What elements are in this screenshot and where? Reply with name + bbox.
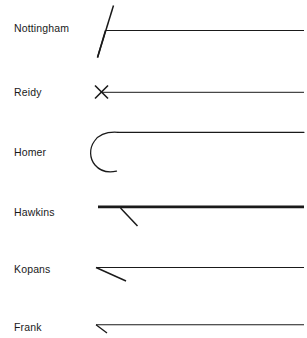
nottingham-stroke-outer <box>98 6 114 58</box>
row-label-homer: Homer <box>14 146 46 158</box>
row-label-hawkins: Hawkins <box>14 206 55 218</box>
reidy-cross-stroke-b <box>95 86 108 99</box>
row-label-frank: Frank <box>14 321 42 333</box>
annotation-canvas: Nottingham Reidy Homer <box>0 0 307 338</box>
kopans-wedge-lower <box>96 268 126 282</box>
row-mark-nottingham <box>0 0 307 338</box>
nottingham-stroke-inner <box>98 31 106 58</box>
row-mark-hawkins <box>0 0 307 338</box>
hawkins-descender <box>121 208 138 226</box>
frank-wedge-lower <box>96 325 107 333</box>
row-mark-homer <box>0 0 307 338</box>
row-label-reidy: Reidy <box>14 86 42 98</box>
reidy-cross-stroke-a <box>95 86 108 99</box>
homer-c-curve <box>91 132 118 172</box>
row-mark-kopans <box>0 0 307 338</box>
row-label-nottingham: Nottingham <box>14 22 69 34</box>
row-mark-reidy <box>0 0 307 338</box>
row-label-kopans: Kopans <box>14 263 51 275</box>
row-mark-frank <box>0 0 307 338</box>
